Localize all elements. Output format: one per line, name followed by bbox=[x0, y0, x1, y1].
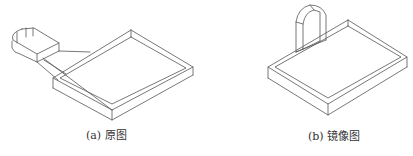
tray-b-top-outer bbox=[268, 20, 407, 104]
arch-b-edge bbox=[310, 5, 314, 10]
boss-a-bottom bbox=[12, 41, 59, 62]
arch-b-edge bbox=[296, 22, 303, 24]
loft-line bbox=[44, 60, 66, 74]
figure-a-caption: (a) 原图 bbox=[86, 130, 127, 142]
figure-b-caption: (b) 镜像图 bbox=[308, 131, 360, 143]
figure-b-mirrored bbox=[268, 5, 407, 115]
tray-b-bottom bbox=[268, 67, 407, 115]
tray-b-top-inner bbox=[275, 26, 401, 98]
figure-a-original bbox=[12, 28, 193, 120]
boss-a-top bbox=[12, 28, 59, 54]
tray-a-top-inner bbox=[60, 37, 186, 104]
loft-line bbox=[59, 51, 90, 52]
loft-line bbox=[37, 62, 58, 80]
